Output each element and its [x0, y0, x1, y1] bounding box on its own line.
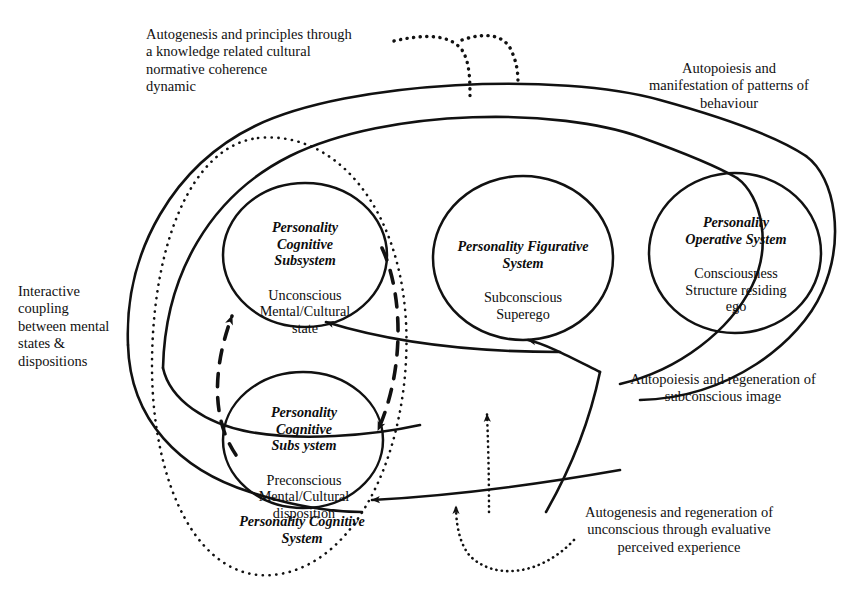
connector-solid-to-figurative — [528, 340, 600, 372]
node-title: Personality Cognitive Subs ystem — [223, 404, 385, 454]
annotation-autopoiesis-manifestation: Autopoiesis and manifestation of pattern… — [620, 60, 838, 112]
connector-dotted-branch-right — [462, 36, 518, 86]
connector-solid-to-preconscious — [372, 470, 620, 500]
diagram-canvas: Autogenesis and principles through a kno… — [0, 0, 859, 605]
group-label-personality-cognitive-system: Personality Cognitive System — [196, 513, 408, 546]
node-personality-figurative-system: Personality Figurative System Subconscio… — [432, 220, 614, 340]
annotation-interactive-coupling: Interactive coupling between mental stat… — [18, 283, 138, 370]
node-personality-cognitive-subsystem-unconscious: Personality Cognitive Subsystem Unconsci… — [223, 201, 387, 355]
node-body: Consciousness Structure residing ego — [648, 265, 824, 315]
node-body: Subconscious Superego — [432, 289, 614, 322]
connector-hub-spoke-down — [546, 372, 600, 512]
node-body: Unconscious Mental/Cultural state — [223, 287, 387, 337]
node-title: Personality Cognitive Subsystem — [223, 219, 387, 269]
node-title: Personality Figurative System — [432, 238, 614, 271]
annotation-autopoiesis-regeneration-subconscious: Autopoiesis and regeneration of subconsc… — [604, 371, 842, 406]
node-title: Personality Operative System — [648, 214, 824, 247]
annotation-autogenesis-principles: Autogenesis and principles through a kno… — [146, 26, 402, 96]
node-personality-operative-system: Personality Operative System Consciousne… — [648, 196, 824, 333]
annotation-autogenesis-regeneration-unconscious: Autogenesis and regeneration of unconsci… — [536, 504, 822, 556]
connector-dotted-up-to-hub — [487, 414, 489, 512]
